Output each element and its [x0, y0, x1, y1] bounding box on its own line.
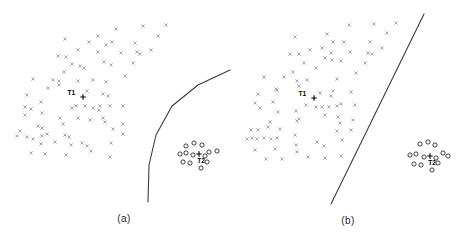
o-marker: [430, 168, 434, 172]
x-marker: [339, 59, 342, 62]
x-marker: [53, 140, 56, 143]
o-marker: [441, 151, 445, 155]
panel-b: T1T2: [245, 14, 450, 204]
x-marker: [291, 70, 294, 73]
x-marker: [46, 86, 49, 89]
x-marker: [138, 52, 141, 55]
x-marker: [318, 91, 321, 94]
x-marker: [329, 94, 332, 97]
x-marker: [330, 58, 333, 61]
x-marker: [70, 62, 73, 65]
x-marker: [253, 148, 256, 151]
x-marker: [258, 106, 261, 109]
x-marker: [121, 132, 124, 135]
x-marker: [111, 127, 114, 130]
x-marker: [23, 113, 26, 116]
x-marker: [64, 55, 67, 58]
x-marker: [58, 116, 61, 119]
x-marker: [25, 93, 28, 96]
x-marker: [294, 109, 297, 112]
x-marker: [31, 137, 34, 140]
x-marker: [18, 129, 21, 132]
o-marker: [181, 160, 185, 164]
x-marker: [67, 135, 70, 138]
x-marker: [308, 48, 311, 51]
x-marker: [339, 102, 342, 105]
x-marker: [15, 134, 18, 137]
x-marker: [109, 141, 112, 144]
x-marker: [64, 153, 67, 156]
x-marker: [314, 105, 317, 108]
x-marker: [57, 83, 60, 86]
x-marker: [62, 70, 65, 73]
x-marker: [249, 128, 252, 131]
x-marker: [302, 61, 305, 64]
x-marker: [380, 46, 383, 49]
x-marker: [141, 24, 144, 27]
o-marker: [191, 153, 195, 157]
test-point-T2-label: T2: [197, 157, 205, 164]
x-marker: [156, 34, 159, 37]
x-marker: [29, 107, 32, 110]
o-marker: [418, 142, 422, 146]
o-marker: [419, 163, 423, 167]
x-marker: [366, 51, 369, 54]
x-marker: [96, 50, 99, 53]
x-marker: [51, 78, 54, 81]
x-marker: [250, 136, 253, 139]
x-marker: [82, 66, 85, 69]
x-marker: [91, 106, 94, 109]
x-marker: [340, 138, 343, 141]
x-marker: [63, 37, 66, 40]
x-marker: [135, 50, 138, 53]
test-point-T1-plus-marker: [80, 94, 85, 99]
o-marker: [178, 152, 182, 156]
x-marker: [297, 117, 300, 120]
x-marker: [335, 77, 338, 80]
x-marker: [288, 52, 291, 55]
x-marker: [370, 52, 373, 55]
x-marker: [325, 32, 328, 35]
x-marker: [61, 122, 64, 125]
x-marker: [25, 135, 28, 138]
x-marker: [104, 80, 107, 83]
x-marker: [297, 84, 300, 87]
x-marker: [351, 118, 354, 121]
x-marker: [36, 124, 39, 127]
x-marker: [78, 64, 81, 67]
x-marker: [280, 157, 283, 160]
x-marker: [323, 113, 326, 116]
x-marker: [87, 40, 90, 43]
x-marker: [275, 136, 278, 139]
x-marker: [89, 149, 92, 152]
x-marker: [276, 110, 279, 113]
test-point-T1-label: T1: [67, 89, 75, 96]
x-marker: [43, 152, 46, 155]
x-marker: [349, 128, 352, 131]
x-marker: [63, 133, 66, 136]
o-marker: [205, 160, 209, 164]
x-marker: [57, 79, 60, 82]
x-marker: [133, 41, 136, 44]
x-marker: [45, 132, 48, 135]
x-marker: [275, 88, 278, 91]
x-marker: [266, 125, 269, 128]
x-marker: [103, 120, 106, 123]
x-marker: [40, 134, 43, 137]
x-marker: [85, 89, 88, 92]
o-marker: [414, 152, 418, 156]
x-marker: [320, 46, 323, 49]
x-marker: [109, 63, 112, 66]
x-marker: [320, 105, 323, 108]
x-marker: [39, 100, 42, 103]
test-point-T1-plus-marker: [311, 95, 316, 100]
x-marker: [23, 105, 26, 108]
x-marker: [83, 104, 86, 107]
x-marker: [347, 23, 350, 26]
o-marker: [408, 153, 412, 157]
x-marker: [306, 155, 309, 158]
o-marker: [446, 154, 450, 158]
x-marker: [164, 23, 167, 26]
x-marker: [368, 40, 371, 43]
x-marker: [335, 129, 338, 132]
